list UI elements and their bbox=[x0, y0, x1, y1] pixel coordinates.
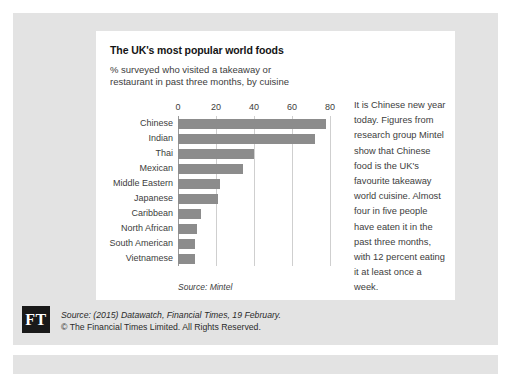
bar-row: Vietnamese bbox=[178, 251, 330, 266]
bar bbox=[178, 149, 254, 159]
x-tick-label: 80 bbox=[325, 102, 335, 112]
bar-row: Caribbean bbox=[178, 206, 330, 221]
category-label: Thai bbox=[155, 147, 173, 160]
bar-row: Japanese bbox=[178, 191, 330, 206]
bar-row: Indian bbox=[178, 131, 330, 146]
plot-area: 020406080 ChineseIndianThaiMexicanMiddle… bbox=[110, 102, 343, 272]
footer-text: Source: (2015) Datawatch, Financial Time… bbox=[61, 309, 471, 333]
category-label: Caribbean bbox=[131, 207, 173, 220]
category-label: South American bbox=[109, 237, 173, 250]
chart-subtitle: % surveyed who visited a takeaway or res… bbox=[110, 64, 300, 89]
x-tick-label: 20 bbox=[211, 102, 221, 112]
x-tick-label: 0 bbox=[175, 102, 180, 112]
bar-row: South American bbox=[178, 236, 330, 251]
bar bbox=[178, 164, 243, 174]
chart-card: The UK's most popular world foods % surv… bbox=[96, 31, 455, 300]
bar bbox=[178, 119, 326, 129]
category-label: North African bbox=[121, 222, 173, 235]
bar-row: North African bbox=[178, 221, 330, 236]
category-label: Mexican bbox=[139, 162, 173, 175]
category-label: Indian bbox=[148, 132, 173, 145]
gridline bbox=[330, 116, 331, 266]
chart-card-inner: The UK's most popular world foods % surv… bbox=[110, 44, 441, 289]
chart-source-note: Source: Mintel bbox=[178, 282, 232, 292]
x-tick-label: 40 bbox=[249, 102, 259, 112]
bar bbox=[178, 134, 315, 144]
footer-line-1: Source: (2015) Datawatch, Financial Time… bbox=[61, 309, 471, 321]
footer-publication: Financial Times bbox=[167, 310, 228, 320]
footer-line-2: © The Financial Times Limited. All Right… bbox=[61, 321, 471, 333]
bar bbox=[178, 194, 218, 204]
bar-row: Chinese bbox=[178, 116, 330, 131]
bar bbox=[178, 179, 220, 189]
x-tick-label: 60 bbox=[287, 102, 297, 112]
bar bbox=[178, 254, 195, 264]
category-label: Vietnamese bbox=[126, 252, 173, 265]
bar-row: Mexican bbox=[178, 161, 330, 176]
footer-source-prefix: Source: (2015) Datawatch, bbox=[61, 310, 167, 320]
ft-logo-icon: FT bbox=[22, 306, 50, 333]
page-root: The UK's most popular world foods % surv… bbox=[0, 0, 511, 374]
bar bbox=[178, 224, 197, 234]
category-label: Chinese bbox=[140, 117, 173, 130]
footer: FT Source: (2015) Datawatch, Financial T… bbox=[22, 306, 482, 338]
category-label: Middle Eastern bbox=[113, 177, 173, 190]
chart-title: The UK's most popular world foods bbox=[110, 44, 441, 57]
footer-source-suffix: , 19 February. bbox=[228, 310, 281, 320]
bar-rows: ChineseIndianThaiMexicanMiddle EasternJa… bbox=[178, 116, 330, 266]
bar bbox=[178, 239, 195, 249]
side-commentary: It is Chinese new year today. Figures fr… bbox=[354, 98, 446, 296]
grey-panel-bottom bbox=[13, 355, 498, 374]
chart-body: 020406080 ChineseIndianThaiMexicanMiddle… bbox=[110, 102, 441, 272]
bar-row: Thai bbox=[178, 146, 330, 161]
x-axis-ticks: 020406080 bbox=[178, 102, 343, 115]
bar bbox=[178, 209, 201, 219]
category-label: Japanese bbox=[134, 192, 173, 205]
bar-row: Middle Eastern bbox=[178, 176, 330, 191]
plot-canvas: ChineseIndianThaiMexicanMiddle EasternJa… bbox=[178, 116, 330, 266]
